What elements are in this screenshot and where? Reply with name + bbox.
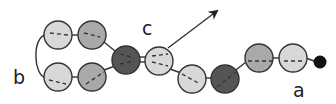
label-b: b <box>13 66 25 88</box>
direction-arrow <box>168 11 217 48</box>
bead-bottom-left <box>44 63 72 91</box>
label-c: c <box>142 17 152 39</box>
bead-chain-light <box>279 44 307 72</box>
bead-lower-light <box>178 65 206 93</box>
label-a: a <box>293 79 305 101</box>
bead-chain-diagram: b c a <box>0 0 336 104</box>
bead-top-middle <box>78 21 106 49</box>
bead-lower-dark <box>211 65 239 93</box>
bond-top-to-branch <box>104 42 115 51</box>
bond-up <box>236 62 246 70</box>
bead-branch-node <box>112 46 140 74</box>
terminal-dot <box>314 56 327 69</box>
bead-after-branch <box>145 47 173 75</box>
bead-bottom-middle <box>78 63 106 91</box>
bead-chain-medium <box>245 44 273 72</box>
bead-top-left <box>44 21 72 49</box>
